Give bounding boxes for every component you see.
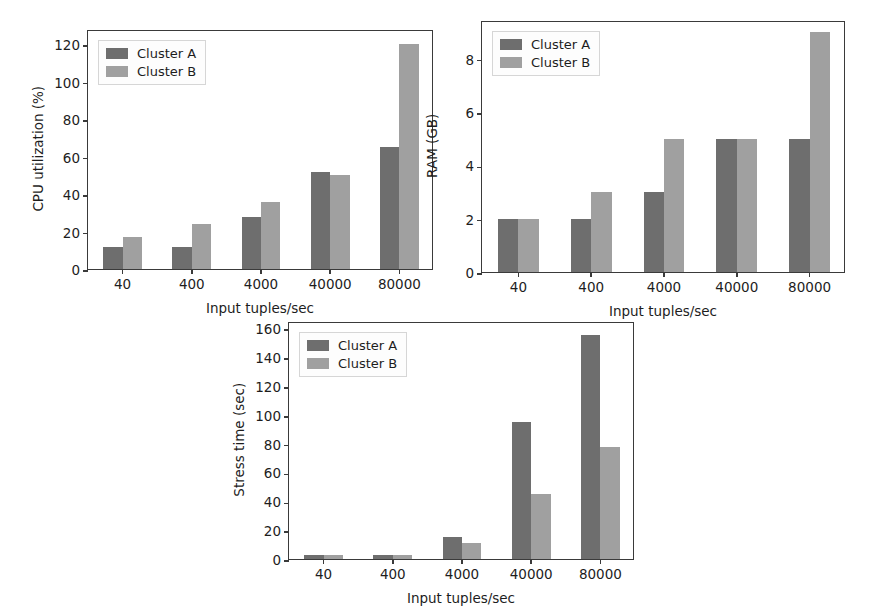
legend-swatch-icon-cluster_a <box>307 340 329 351</box>
x-axis-title-ram: Input tuples/sec <box>609 305 717 319</box>
x-tick-label: 80000 <box>378 278 421 292</box>
y-tick-mark <box>284 560 289 562</box>
bar-ram-cluster_b-40000 <box>737 139 757 272</box>
x-tick-label: 400 <box>380 568 406 582</box>
legend-label-cluster_a: Cluster A <box>137 47 196 60</box>
bar-stress-cluster_b-80000 <box>600 447 619 560</box>
y-tick-label: 0 <box>272 554 281 568</box>
bar-stress-cluster_b-40 <box>324 555 343 559</box>
y-tick-label: 8 <box>465 54 474 68</box>
x-tick-label: 40000 <box>715 281 758 295</box>
legend-item-cluster_a[interactable]: Cluster A <box>106 47 196 60</box>
y-tick-label: 160 <box>255 323 281 337</box>
bar-ram-cluster_a-4000 <box>644 192 664 272</box>
y-tick-label: 40 <box>63 189 80 203</box>
legend-label-cluster_a: Cluster A <box>531 38 590 51</box>
y-tick-mark <box>83 233 88 235</box>
x-tick-label: 40000 <box>309 278 352 292</box>
y-tick-mark <box>284 503 289 505</box>
y-tick-mark <box>284 416 289 418</box>
x-tick-mark <box>530 559 532 564</box>
y-tick-mark <box>83 83 88 85</box>
x-tick-mark <box>329 269 331 274</box>
y-axis-title-cpu: CPU utilization (%) <box>32 29 46 269</box>
y-tick-mark <box>284 445 289 447</box>
bar-ram-cluster_b-80000 <box>810 32 830 272</box>
y-tick-mark <box>477 220 482 222</box>
bar-stress-cluster_b-4000 <box>462 543 481 559</box>
y-axis-title-stress: Stress time (sec) <box>233 321 247 559</box>
legend-label-cluster_b: Cluster B <box>338 357 397 370</box>
bar-cpu-cluster_b-4000 <box>261 202 280 270</box>
bar-ram-cluster_a-80000 <box>789 139 809 272</box>
x-tick-label: 40 <box>510 281 527 295</box>
y-tick-mark <box>284 329 289 331</box>
chart-panel-stress: 0204060801001201401604040040004000080000… <box>288 322 634 560</box>
legend-stress[interactable]: Cluster ACluster B <box>299 332 407 377</box>
y-tick-mark <box>83 120 88 122</box>
legend-item-cluster_a[interactable]: Cluster A <box>500 38 590 51</box>
x-axis-title-cpu: Input tuples/sec <box>206 302 314 316</box>
x-tick-label: 40 <box>315 568 332 582</box>
y-tick-mark <box>477 113 482 115</box>
x-tick-label: 40000 <box>510 568 553 582</box>
bar-stress-cluster_b-40000 <box>531 494 550 559</box>
bar-cpu-cluster_a-400 <box>172 247 191 270</box>
y-tick-label: 100 <box>255 410 281 424</box>
x-tick-mark <box>736 272 738 277</box>
x-tick-mark <box>590 272 592 277</box>
y-tick-mark <box>477 60 482 62</box>
legend-item-cluster_b[interactable]: Cluster B <box>500 56 590 69</box>
legend-swatch-icon-cluster_a <box>500 39 522 50</box>
y-tick-mark <box>284 387 289 389</box>
y-tick-mark <box>284 531 289 533</box>
x-tick-label: 400 <box>179 278 205 292</box>
y-tick-label: 120 <box>54 39 80 53</box>
legend-item-cluster_b[interactable]: Cluster B <box>106 65 196 78</box>
x-tick-label: 80000 <box>788 281 831 295</box>
x-tick-label: 400 <box>578 281 604 295</box>
y-tick-mark <box>83 45 88 47</box>
y-tick-label: 6 <box>465 107 474 121</box>
bar-ram-cluster_b-4000 <box>664 139 684 272</box>
x-tick-mark <box>323 559 325 564</box>
bar-cpu-cluster_b-80000 <box>399 44 418 269</box>
y-tick-mark <box>477 273 482 275</box>
y-tick-mark <box>284 358 289 360</box>
x-tick-label: 40 <box>114 278 131 292</box>
y-tick-label: 20 <box>63 227 80 241</box>
x-axis-title-stress: Input tuples/sec <box>407 592 515 606</box>
x-tick-mark <box>260 269 262 274</box>
legend-swatch-icon-cluster_b <box>307 358 329 369</box>
legend-ram[interactable]: Cluster ACluster B <box>492 31 600 76</box>
chart-panel-ram: 024684040040004000080000Cluster ACluster… <box>481 21 845 273</box>
x-tick-mark <box>122 269 124 274</box>
x-tick-mark <box>600 559 602 564</box>
x-tick-mark <box>663 272 665 277</box>
bar-stress-cluster_a-400 <box>373 555 392 559</box>
legend-label-cluster_a: Cluster A <box>338 339 397 352</box>
y-tick-label: 120 <box>255 381 281 395</box>
bar-stress-cluster_b-400 <box>393 555 412 559</box>
legend-item-cluster_a[interactable]: Cluster A <box>307 339 397 352</box>
x-tick-mark <box>191 269 193 274</box>
legend-cpu[interactable]: Cluster ACluster B <box>98 40 206 85</box>
bar-cpu-cluster_b-400 <box>192 224 211 269</box>
bar-ram-cluster_b-40 <box>518 219 538 272</box>
bar-cpu-cluster_a-40 <box>103 247 122 270</box>
bar-stress-cluster_a-80000 <box>581 335 600 559</box>
x-tick-label: 4000 <box>244 278 278 292</box>
bar-stress-cluster_a-4000 <box>443 537 462 559</box>
legend-item-cluster_b[interactable]: Cluster B <box>307 357 397 370</box>
x-tick-mark <box>809 272 811 277</box>
y-tick-label: 140 <box>255 352 281 366</box>
bar-ram-cluster_a-40000 <box>716 139 736 272</box>
y-axis-title-ram: RAM (GB) <box>426 20 440 272</box>
bar-cpu-cluster_a-80000 <box>380 147 399 269</box>
y-tick-label: 60 <box>264 468 281 482</box>
y-tick-label: 20 <box>264 525 281 539</box>
y-tick-mark <box>83 195 88 197</box>
y-tick-mark <box>284 474 289 476</box>
plot-area-stress: 0204060801001201401604040040004000080000… <box>288 322 634 560</box>
x-tick-mark <box>392 559 394 564</box>
